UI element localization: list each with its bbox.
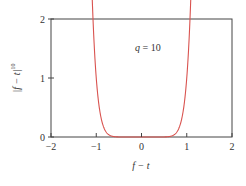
x-tick-label: 0 <box>139 141 144 152</box>
y-tick-label: 0 <box>40 132 45 143</box>
x-tick-label: −1 <box>91 141 102 152</box>
plot-frame <box>51 19 232 137</box>
x-axis-label: f − t <box>132 160 150 171</box>
y-axis-ticks: 012 <box>40 14 54 143</box>
x-tick-label: −2 <box>46 141 57 152</box>
y-tick-label: 1 <box>40 73 45 84</box>
chart: −2−1012 012 q = 10 f − t |f − t|10 <box>0 0 246 186</box>
y-axis-label: |f − t|10 <box>10 64 22 93</box>
y-axis-label-base: |f − t| <box>11 70 22 93</box>
series-line <box>92 0 191 137</box>
svg-text:|f − t|10: |f − t|10 <box>10 64 22 93</box>
x-tick-label: 1 <box>184 141 189 152</box>
y-axis-label-exponent: 10 <box>10 64 16 70</box>
y-tick-label: 2 <box>40 14 45 25</box>
x-tick-label: 2 <box>230 141 235 152</box>
x-axis-ticks: −2−1012 <box>46 133 235 152</box>
annotation-q: q = 10 <box>135 42 161 53</box>
